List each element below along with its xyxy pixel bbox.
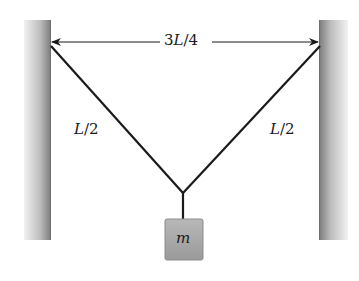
right-wall bbox=[319, 20, 348, 240]
left-string-label: L/2 bbox=[74, 122, 99, 137]
left-wall bbox=[24, 20, 51, 240]
left-string bbox=[51, 46, 183, 193]
mass-label: m bbox=[176, 231, 190, 246]
dimension-label: 3L/4 bbox=[160, 33, 202, 48]
right-string-label: L/2 bbox=[270, 122, 295, 137]
right-string bbox=[183, 46, 320, 193]
